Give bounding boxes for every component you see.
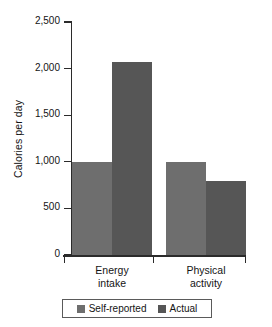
x-tick-mark	[245, 256, 246, 263]
bar-actual-energy-intake	[112, 62, 152, 255]
legend-item-self-reported: Self-reported	[77, 303, 147, 314]
bar-actual-physical-activity	[206, 181, 246, 255]
legend-label: Self-reported	[89, 303, 147, 314]
x-tick-mark	[153, 256, 154, 263]
x-tick-mark	[64, 256, 65, 263]
x-category-label: Energyintake	[67, 264, 157, 289]
legend-swatch-icon	[77, 305, 85, 313]
bar-self-reported-physical-activity	[166, 162, 206, 255]
legend-swatch-icon	[158, 305, 166, 313]
x-category-label-line: intake	[67, 277, 157, 290]
bar-self-reported-energy-intake	[72, 162, 112, 255]
chart-legend: Self-reportedActual	[62, 299, 212, 318]
bar-chart: Calories per day 05001,0001,5002,0002,50…	[0, 0, 272, 327]
x-category-label-line: Energy	[67, 264, 157, 277]
legend-label: Actual	[170, 303, 198, 314]
x-category-label-line: activity	[161, 277, 251, 290]
x-category-label: Physicalactivity	[161, 264, 251, 289]
legend-item-actual: Actual	[158, 303, 198, 314]
x-category-label-line: Physical	[161, 264, 251, 277]
